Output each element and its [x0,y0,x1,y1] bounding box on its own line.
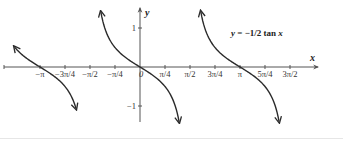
y-tick-label: −1 [127,101,136,111]
y-tick-label: 1 [132,23,136,33]
x-tick-label: π [238,69,243,79]
x-tick-label: π/4 [160,69,172,79]
equation-variable: x [277,28,283,38]
x-tick-label: π/2 [185,69,196,79]
equation-body: = −1/2 tan [235,28,278,38]
x-tick-label: 3π/2 [282,69,297,79]
x-tick-label: −π/2 [82,69,98,79]
equation-label: y = −1/2 tan x [230,28,283,38]
y-axis-label: y [144,7,150,18]
x-tick-label: 0 [139,69,144,79]
x-axis-label: x [309,52,315,63]
x-tick-label: 3π/4 [207,69,223,79]
x-tick-label: −π/4 [107,69,123,79]
bottom-divider [0,138,343,139]
x-tick-label: 5π/4 [257,69,273,79]
x-tick-label: −3π/4 [55,69,76,79]
x-tick-label: −π [35,69,45,79]
tangent-chart: −π−3π/4−π/2−π/40π/4π/23π/4π5π/43π/2 1−1 … [0,0,343,141]
